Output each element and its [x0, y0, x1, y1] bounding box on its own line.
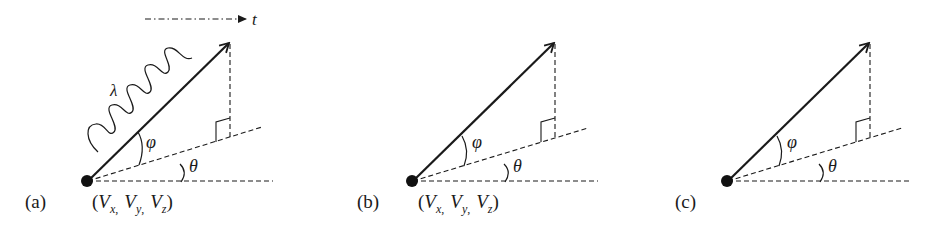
phi-arc [138, 132, 142, 165]
phi-arc [777, 136, 782, 166]
panel-b: φ θ (b) (Vx,Vy,Vz) [357, 43, 598, 216]
phi-label: φ [146, 132, 156, 152]
panel-a: t λ φ θ (a) (Vx,Vy,Vz) [25, 10, 273, 216]
particle-dot [721, 175, 733, 187]
phi-label: φ [472, 132, 482, 152]
theta-label: θ [513, 156, 522, 176]
coords-label-a: (Vx,Vy,Vz) [92, 191, 173, 216]
time-label: t [252, 10, 258, 29]
particle-dot [406, 175, 418, 187]
theta-label: θ [828, 156, 837, 176]
right-angle-marker [216, 118, 230, 142]
panel-c: φ θ (c) [675, 43, 912, 213]
phi-label: φ [787, 132, 797, 152]
coords-label-b: (Vx,Vy,Vz) [418, 191, 499, 216]
velocity-vector [728, 43, 869, 181]
panel-label-c: (c) [675, 191, 696, 213]
theta-label: θ [189, 156, 198, 176]
theta-arc [819, 164, 823, 182]
theta-arc [180, 164, 184, 182]
figure-canvas: t λ φ θ (a) (Vx,Vy,Vz) φ [0, 0, 946, 227]
particle-dot [81, 175, 93, 187]
phi-arc [462, 136, 467, 166]
panel-label-a: (a) [25, 191, 46, 213]
wavelength-label: λ [109, 81, 117, 100]
velocity-vector [413, 43, 554, 181]
theta-arc [504, 164, 508, 182]
panel-label-b: (b) [357, 191, 379, 213]
